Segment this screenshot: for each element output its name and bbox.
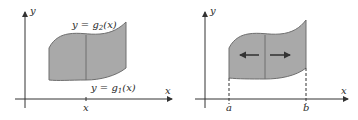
x-axis-label: x (165, 85, 171, 96)
bound-a-label: a (226, 102, 232, 113)
y-axis-label-right: y (209, 5, 216, 16)
left-figure: y x x y = g2(x) y = g1(x) (15, 5, 172, 113)
x-tick-label: x (83, 102, 89, 113)
diagram-canvas: y x x y = g2(x) y = g1(x) y x a b (0, 0, 358, 120)
y-axis-label: y (29, 5, 36, 16)
lower-curve-label: y = g1(x) (90, 82, 136, 95)
upper-curve-label: y = g2(x) (71, 19, 117, 32)
right-figure: y x a b (195, 5, 348, 113)
x-axis-label-right: x (341, 85, 347, 96)
region-type-1-right (229, 20, 306, 79)
bound-b-label: b (303, 102, 309, 113)
region-type-1 (49, 22, 126, 80)
